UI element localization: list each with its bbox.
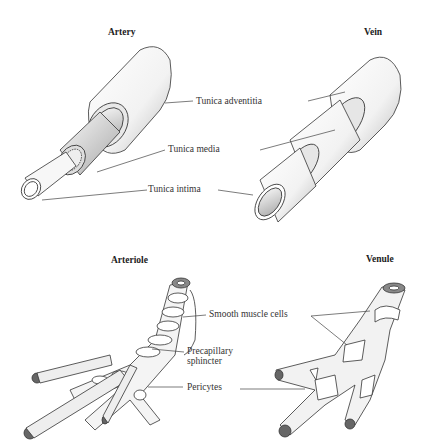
vessel-illustration [0,0,426,446]
artery-drawing [17,47,171,204]
vein-drawing [249,57,401,225]
label-smooth-muscle-cells: Smooth muscle cells [209,309,288,320]
panel-title-arteriole: Arteriole [111,255,148,265]
panel-title-venule: Venule [366,254,394,264]
arteriole-drawing [24,278,196,439]
panel-title-artery: Artery [108,27,135,37]
label-tunica-adventitia: Tunica adventitia [196,96,262,107]
venule-drawing [275,283,405,437]
label-tunica-intima: Tunica intima [148,184,201,195]
label-pericytes: Pericytes [187,382,222,393]
panel-title-vein: Vein [364,27,382,37]
label-tunica-media: Tunica media [168,144,220,155]
label-sphincter: sphincter [187,356,222,367]
